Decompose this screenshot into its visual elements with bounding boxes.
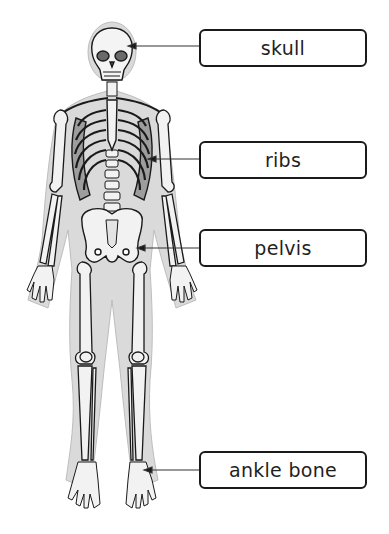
ribs-label: ribs (199, 141, 367, 179)
ankle-bone-label: ankle bone (199, 451, 367, 489)
skull-label: skull (199, 29, 367, 67)
foot-bones-icon (68, 462, 156, 508)
pelvis-label-text: pelvis (254, 237, 311, 259)
ankle-bone-label-text: ankle bone (229, 459, 337, 481)
pelvis-icon (82, 209, 142, 262)
skull-label-text: skull (261, 37, 305, 59)
pelvis-label: pelvis (199, 229, 367, 267)
ribs-label-text: ribs (265, 149, 301, 171)
